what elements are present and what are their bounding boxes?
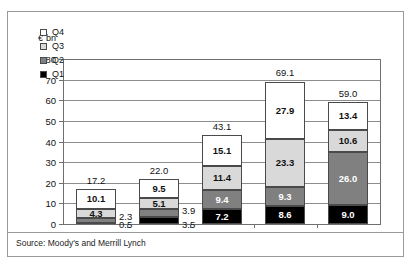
segment-value-label: 7.2 <box>215 212 228 222</box>
y-axis-tick-label: 50 <box>32 115 56 126</box>
segment-value-label: 9.0 <box>341 210 354 220</box>
source-note: Source: Moody's and Merrill Lynch <box>16 238 146 248</box>
segment-value-label: 3.5 <box>182 220 195 230</box>
legend-swatch-Q3 <box>40 43 47 50</box>
legend: Q4Q3Q2Q1 <box>40 25 64 81</box>
bar-segment-2004-Q2[interactable]: 3.9 <box>139 209 179 217</box>
gridline <box>64 80 380 81</box>
y-axis-tick-label: 10 <box>32 198 56 209</box>
bar-total-label-2007: 59.0 <box>318 88 378 99</box>
bar-total-label-2003: 17.2 <box>66 175 126 186</box>
segment-value-label: 3.9 <box>182 206 195 216</box>
y-axis-tick-label: 20 <box>32 177 56 188</box>
segment-value-label: 8.6 <box>278 210 291 220</box>
bar-segment-2006-Q4[interactable]: 27.9 <box>265 82 305 140</box>
segment-value-label: 13.4 <box>339 111 358 121</box>
legend-swatch-Q4 <box>40 29 47 36</box>
bar-segment-2007-Q3[interactable]: 10.6 <box>328 130 368 152</box>
y-axis-tick-label: 60 <box>32 95 56 106</box>
legend-item-Q2[interactable]: Q2 <box>40 53 64 67</box>
segment-value-label: 5.1 <box>152 199 165 209</box>
legend-item-Q1[interactable]: Q1 <box>40 67 64 81</box>
bar-segment-2007-Q2[interactable]: 26.0 <box>328 152 368 206</box>
legend-label: Q2 <box>52 55 64 65</box>
legend-item-Q4[interactable]: Q4 <box>40 25 64 39</box>
segment-value-label: 2.3 <box>119 212 132 222</box>
bar-segment-2006-Q1[interactable]: 8.6 <box>265 206 305 224</box>
bar-segment-2005-Q4[interactable]: 15.1 <box>202 135 242 166</box>
bar-total-label-2006: 69.1 <box>255 67 315 78</box>
x-axis-tick-mark <box>254 224 255 228</box>
segment-value-label: 9.5 <box>152 184 165 194</box>
x-axis-tick-mark <box>317 224 318 228</box>
bar-segment-2005-Q1[interactable]: 7.2 <box>202 209 242 224</box>
bar-total-label-2004: 22.0 <box>129 165 189 176</box>
segment-value-label: 11.4 <box>213 173 231 183</box>
legend-label: Q1 <box>52 69 64 79</box>
legend-item-Q3[interactable]: Q3 <box>40 39 64 53</box>
y-axis-tick-label: 40 <box>32 136 56 147</box>
x-axis-line <box>63 224 381 225</box>
segment-value-label: 10.1 <box>87 194 106 204</box>
source-divider <box>8 232 403 233</box>
legend-swatch-Q1 <box>40 71 47 78</box>
segment-value-label: 26.0 <box>339 174 358 184</box>
bar-segment-2007-Q4[interactable]: 13.4 <box>328 102 368 130</box>
legend-swatch-Q2 <box>40 57 47 64</box>
bar-segment-2003-Q3[interactable]: 4.3 <box>76 209 116 218</box>
x-axis-tick-mark <box>190 224 191 228</box>
segment-value-label: 27.9 <box>276 106 295 116</box>
bar-segment-2003-Q4[interactable]: 10.1 <box>76 189 116 210</box>
y-axis-tick-label: 0 <box>32 219 56 230</box>
plot-area: 01020304050607080 0.52.34.310.117.220033… <box>64 59 380 224</box>
plot-frame-right <box>380 59 381 225</box>
segment-value-label: 23.3 <box>276 158 295 168</box>
bar-segment-2005-Q2[interactable]: 9.4 <box>202 190 242 209</box>
segment-value-label: 9.4 <box>215 195 228 205</box>
y-axis-tick-mark <box>59 224 64 225</box>
bar-segment-2005-Q3[interactable]: 11.4 <box>202 166 242 190</box>
segment-value-label: 9.3 <box>278 192 291 202</box>
bar-segment-2004-Q4[interactable]: 9.5 <box>139 179 179 199</box>
bar-segment-2006-Q2[interactable]: 9.3 <box>265 187 305 206</box>
bar-segment-2004-Q3[interactable]: 5.1 <box>139 198 179 209</box>
bar-segment-2007-Q1[interactable]: 9.0 <box>328 205 368 224</box>
chart-figure: € bn 01020304050607080 0.52.34.310.117.2… <box>7 11 404 257</box>
segment-value-label: 15.1 <box>213 146 232 156</box>
segment-value-label: 4.3 <box>89 209 102 219</box>
bar-segment-2004-Q1[interactable]: 3.5 <box>139 217 179 224</box>
gridline <box>64 100 380 101</box>
legend-label: Q4 <box>52 27 64 37</box>
x-axis-tick-mark <box>127 224 128 228</box>
plot-frame-top <box>64 59 380 60</box>
segment-value-label: 10.6 <box>339 136 358 146</box>
legend-label: Q3 <box>52 41 64 51</box>
bar-segment-2006-Q3[interactable]: 23.3 <box>265 139 305 187</box>
y-axis-tick-label: 30 <box>32 157 56 168</box>
bar-total-label-2005: 43.1 <box>192 121 252 132</box>
